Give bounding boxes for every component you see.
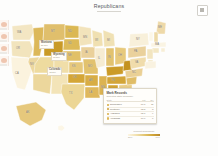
row-ev: 9 <box>146 112 154 116</box>
state-label-MT: MT <box>51 30 55 33</box>
callout-value: 56.2% <box>41 44 52 47</box>
state-NH <box>154 32 158 42</box>
state-label-NY: NY <box>136 38 140 41</box>
state-label-WA: WA <box>17 31 21 34</box>
map-callout[interactable]: Wyoming 68.2% <box>51 52 67 61</box>
state-label-MI: MI <box>107 39 110 42</box>
state-label-WI: WI <box>95 39 98 42</box>
row-label-cell: Alabama <box>107 112 137 116</box>
state-label-AR: AR <box>89 79 93 82</box>
state-label-KS: KS <box>72 65 76 68</box>
state-label-IL: IL <box>98 57 100 60</box>
row-pct: 62.5 <box>137 108 146 112</box>
state-AK <box>16 102 46 126</box>
state-label-OK: OK <box>73 76 77 79</box>
row-ev: 11 <box>146 103 154 107</box>
state-OR <box>11 41 33 58</box>
column-header-pct: Pct <box>137 99 146 101</box>
state-label-MO: MO <box>88 65 92 68</box>
state-label-MA: MA <box>155 43 159 46</box>
state-label-CA: CA <box>15 72 19 75</box>
color-scale-legend: Percent Republican 30% 70% <box>128 130 160 138</box>
row-pct: 62.1 <box>137 112 146 116</box>
state-AZ <box>33 74 52 94</box>
row-label: Tennessee <box>110 103 122 107</box>
state-TN <box>107 76 126 84</box>
state-label-ND: ND <box>68 30 72 33</box>
row-label: Kentucky <box>110 108 120 112</box>
state-label-NC: NC <box>132 71 136 74</box>
expand-icon-glyph <box>200 8 204 12</box>
callout-value: 68.2% <box>53 56 65 59</box>
table-row[interactable]: Arkansas 60.6 6 <box>107 117 154 121</box>
state-label-AK: AK <box>26 111 30 114</box>
info-card-subtitle: Selected state summary <box>107 95 154 98</box>
row-label-cell: Kentucky <box>107 108 137 112</box>
state-label-MN: MN <box>83 36 87 39</box>
row-ev: 8 <box>146 108 154 112</box>
legend-ticks: 30% 70% <box>128 136 160 138</box>
state-NJ <box>147 49 153 59</box>
state-HI <box>58 125 65 131</box>
state-WA <box>12 24 34 40</box>
state-KY <box>106 66 124 76</box>
column-header-ev: EV <box>146 99 154 101</box>
state-label-TN: TN <box>111 79 115 82</box>
state-label-TX: TX <box>69 92 72 95</box>
state-label-VA: VA <box>135 61 138 64</box>
color-swatch <box>107 117 109 119</box>
state-label-IN: IN <box>108 56 111 59</box>
map-application: Republicans <box>0 0 218 156</box>
state-LA <box>85 87 100 98</box>
row-label: Alabama <box>110 112 120 116</box>
row-label-cell: Tennessee <box>107 103 137 107</box>
column-header-state: State <box>107 99 137 101</box>
state-VT <box>149 32 153 41</box>
state-IA <box>81 47 95 58</box>
row-label-cell: Arkansas <box>107 117 137 121</box>
state-TX <box>61 84 85 110</box>
map-callout[interactable]: Colorado 43.3% <box>47 67 62 76</box>
state-label-ME: ME <box>158 26 162 29</box>
info-card[interactable]: Mark Records Selected state summary Stat… <box>103 88 157 124</box>
callout-value: 43.3% <box>49 71 60 74</box>
row-pct: 60.6 <box>137 117 146 121</box>
row-label: Arkansas <box>110 117 120 121</box>
state-label-IA: IA <box>85 51 88 54</box>
legend-min: 30% <box>128 136 132 138</box>
state-label-PA: PA <box>134 50 137 53</box>
row-ev: 6 <box>146 117 154 121</box>
row-pct: 60.7 <box>137 103 146 107</box>
state-label-OH: OH <box>118 54 122 57</box>
map-callout[interactable]: Montana 56.2% <box>39 40 54 49</box>
state-label-OR: OR <box>16 47 20 50</box>
state-RI <box>161 48 165 52</box>
info-card-header: State Pct EV <box>107 99 154 103</box>
choropleth-map[interactable]: WA OR CA NV MT ND SD NE KS OK TX MN IA M… <box>6 16 218 144</box>
color-swatch <box>107 113 109 115</box>
state-label-LA: LA <box>89 91 92 94</box>
state-label-NV: NV <box>30 63 34 66</box>
state-label-NE: NE <box>68 54 72 57</box>
state-MD <box>145 61 156 69</box>
color-swatch <box>107 104 109 106</box>
state-label-SD: SD <box>68 42 72 45</box>
title-divider <box>97 11 121 12</box>
legend-max: 70% <box>156 136 160 138</box>
page-title: Republicans <box>0 3 218 9</box>
expand-icon[interactable] <box>197 5 208 16</box>
color-swatch <box>107 108 109 110</box>
